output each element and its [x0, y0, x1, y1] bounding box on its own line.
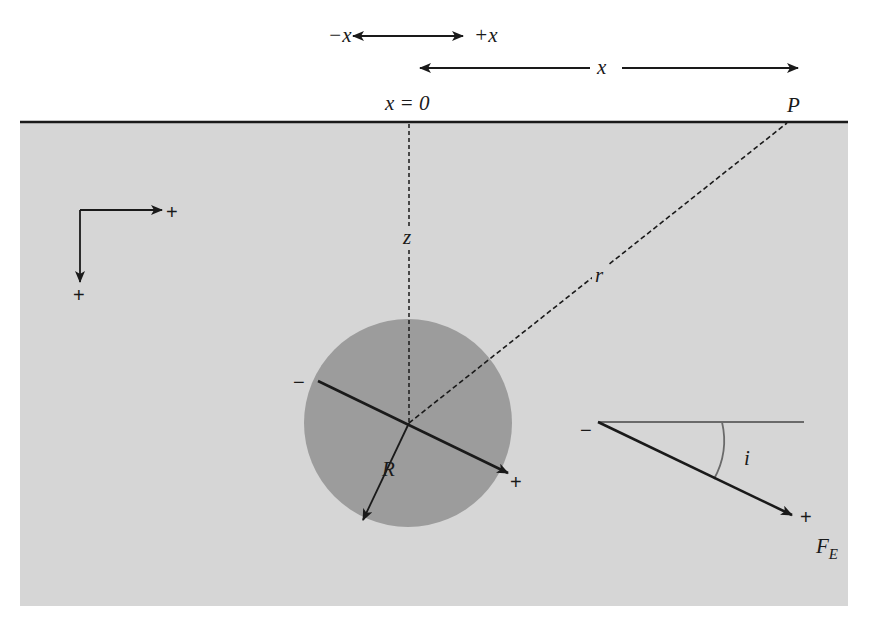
inset-plus-sign: + — [800, 506, 812, 528]
neg-x-label: −x — [328, 23, 352, 47]
dipole-plus-sign: + — [510, 471, 522, 493]
distance-r-label: r — [595, 263, 604, 287]
axis-x-plus-sign: + — [166, 201, 178, 223]
field-f-label: F — [815, 534, 829, 558]
point-p-label: P — [786, 93, 800, 117]
inset-minus-sign: − — [580, 419, 592, 441]
field-e-subscript: E — [828, 546, 838, 562]
sphere-dipole-diagram: −x +x x x = 0 P + + z r − + R − + i FE — [0, 0, 869, 628]
inclination-i-label: i — [744, 446, 750, 470]
axis-z-plus-sign: + — [73, 284, 85, 306]
depth-z-label: z — [402, 225, 411, 249]
buried-sphere — [304, 319, 512, 527]
pos-x-label: +x — [474, 23, 498, 47]
x-origin-label: x = 0 — [384, 91, 430, 115]
x-distance-label: x — [596, 55, 607, 79]
dipole-minus-sign: − — [293, 371, 305, 393]
radius-r-label: R — [381, 457, 395, 481]
